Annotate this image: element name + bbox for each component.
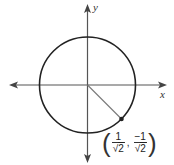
y-denominator: √2: [134, 142, 147, 155]
y-den-value: 2: [140, 143, 146, 154]
x-numerator: 1: [114, 131, 122, 142]
x-denominator: √2: [112, 142, 125, 155]
left-paren: (: [102, 130, 111, 156]
y-axis-label: y: [93, 1, 98, 13]
radius-line: [88, 85, 122, 119]
y-numerator: −1: [134, 131, 147, 142]
x-axis-label: x: [160, 88, 165, 100]
y-coordinate-fraction: −1 √2: [134, 131, 147, 155]
x-den-value: 2: [118, 143, 124, 154]
comma: ,: [127, 137, 130, 148]
x-coordinate-fraction: 1 √2: [112, 131, 125, 155]
point-marker: [119, 117, 124, 122]
point-coordinate-label: ( 1 √2 , −1 √2 ): [102, 130, 157, 156]
right-paren: ): [148, 130, 157, 156]
